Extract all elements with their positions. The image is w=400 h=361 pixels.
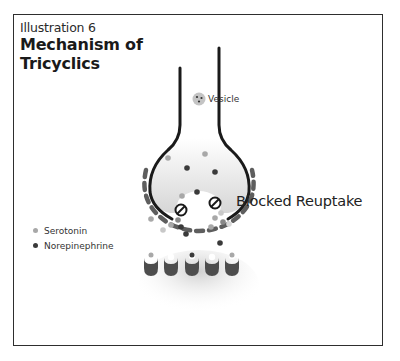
legend-label: Norepinephrine — [44, 241, 114, 251]
receptor — [144, 253, 158, 277]
blocked-icon — [176, 205, 187, 216]
legend-item-serotonin: Serotonin — [33, 223, 114, 238]
legend-label: Serotonin — [44, 226, 87, 236]
blocked-reuptake-label: Blocked Reuptake — [236, 193, 362, 209]
blocked-icon — [210, 198, 221, 209]
synapse-diagram — [0, 0, 400, 361]
legend-item-norepinephrine: Norepinephrine — [33, 238, 114, 253]
vesicle-icon — [193, 93, 206, 106]
norepinephrine-dot-icon — [33, 243, 38, 248]
vesicle-label: Vesicle — [208, 94, 239, 104]
axon-terminal-fill — [150, 47, 249, 213]
serotonin-dot-icon — [33, 228, 38, 233]
legend: Serotonin Norepinephrine — [33, 223, 114, 253]
